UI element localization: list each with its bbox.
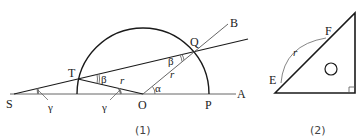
- angle-arc-gamma-S: [38, 89, 39, 95]
- label-E: E: [269, 73, 276, 87]
- label-B: B: [230, 16, 238, 30]
- right-angle-mark: [349, 87, 355, 93]
- caption-figure-2: (2): [310, 124, 326, 137]
- label-beta-Q: β: [168, 55, 174, 67]
- angle-arc-beta-Q-2: [180, 55, 182, 62]
- label-r-OT: r: [120, 74, 125, 86]
- inner-circle-mark: [325, 63, 337, 75]
- label-O: O: [138, 98, 147, 112]
- label-r-OQ: r: [170, 68, 175, 80]
- angle-arc-beta-T: [97, 75, 98, 84]
- label-Q: Q: [190, 35, 199, 49]
- angle-arc-beta-Q: [182, 55, 184, 61]
- right-triangle: [275, 13, 355, 93]
- leader-gamma-O: [110, 90, 120, 100]
- label-gamma-S: γ: [47, 101, 53, 113]
- figure-2: E F r (2): [269, 13, 355, 137]
- label-S: S: [6, 97, 13, 111]
- angle-arc-beta-T-2: [99, 74, 100, 84]
- arc-EF: [281, 38, 326, 83]
- label-T: T: [68, 66, 76, 80]
- figure-1: S T O P A Q B γ γ β β α r r (1): [6, 16, 248, 137]
- label-beta-T: β: [101, 73, 107, 85]
- label-gamma-O: γ: [101, 101, 107, 113]
- caption-figure-1: (1): [135, 124, 151, 137]
- leader-gamma-S: [38, 90, 48, 100]
- label-alpha: α: [155, 82, 161, 94]
- line-STQ: [14, 39, 248, 94]
- segment-TO: [78, 79, 143, 94]
- diagram-canvas: S T O P A Q B γ γ β β α r r (1) E F r (2…: [0, 0, 364, 139]
- label-A: A: [237, 87, 246, 101]
- label-r-arc: r: [293, 46, 298, 58]
- label-F: F: [325, 24, 332, 38]
- label-P: P: [205, 98, 212, 112]
